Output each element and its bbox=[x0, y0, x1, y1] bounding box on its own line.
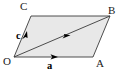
vertex-label-B: B bbox=[108, 5, 115, 16]
vertex-label-A: A bbox=[96, 58, 104, 69]
vertex-label-O: O bbox=[3, 56, 11, 67]
vector-label-a: a bbox=[47, 61, 52, 72]
vector-parallelogram-figure: C B O A a c bbox=[0, 0, 125, 74]
vertex-label-C: C bbox=[20, 1, 27, 12]
vector-label-c: c bbox=[16, 31, 21, 42]
